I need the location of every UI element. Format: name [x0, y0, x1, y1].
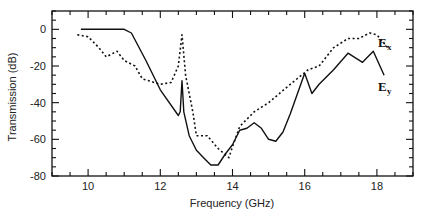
- x-tick-label: 12: [154, 180, 166, 192]
- y-tick-label: -60: [30, 133, 46, 145]
- axes-frame: [52, 11, 413, 176]
- x-tick-label: 16: [299, 180, 311, 192]
- transmission-chart: 10121416180-20-40-60-80 EyEx Frequency (…: [0, 0, 425, 217]
- series-line-ex: [77, 33, 387, 158]
- x-tick-label: 14: [226, 180, 238, 192]
- y-tick-label: -80: [30, 170, 46, 182]
- ticks: 10121416180-20-40-60-80: [30, 11, 413, 192]
- y-tick-label: -20: [30, 60, 46, 72]
- y-tick-label: 0: [40, 23, 46, 35]
- legend-label-main: E: [378, 79, 387, 94]
- legend-label-sub: x: [387, 42, 392, 52]
- legend-label-sub: y: [387, 86, 392, 96]
- plot-frame: [52, 11, 413, 176]
- legend-label-main: E: [378, 35, 387, 50]
- x-tick-label: 10: [82, 180, 94, 192]
- legend-label-ey: Ey: [378, 79, 392, 96]
- y-axis-label: Transmission (dB): [6, 53, 18, 142]
- x-tick-label: 18: [371, 180, 383, 192]
- legend-label-ex: Ex: [378, 35, 392, 52]
- series-group: [77, 29, 387, 165]
- x-axis-label: Frequency (GHz): [190, 197, 274, 209]
- y-tick-label: -40: [30, 97, 46, 109]
